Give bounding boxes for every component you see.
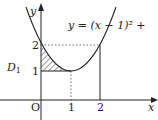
y-axis-arrow-icon <box>38 3 44 11</box>
graph-figure: y x O 1 2 1 2 D1 y = (x − 1)² + <box>0 0 158 120</box>
equation-label: y = (x − 1)² + <box>67 19 146 32</box>
origin-label: O <box>31 101 40 114</box>
y-tick-1: 1 <box>32 65 39 78</box>
y-axis-label: y <box>29 5 37 18</box>
y-tick-2: 2 <box>32 39 39 52</box>
x-tick-1: 1 <box>68 101 75 114</box>
shaded-region-d1 <box>41 45 71 71</box>
region-label: D1 <box>6 61 21 75</box>
x-tick-2: 2 <box>97 101 104 114</box>
parabola-curve <box>26 7 116 71</box>
x-axis-label: x <box>148 101 155 114</box>
